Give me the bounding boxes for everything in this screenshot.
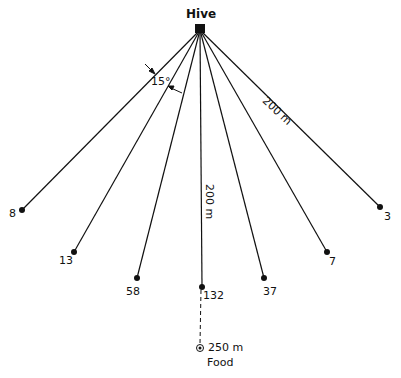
station-count-label: 13 [59,255,73,267]
station-count-label: 37 [263,286,277,298]
fan-diagram [0,0,401,378]
hive-marker [195,24,205,33]
station-count-label: 58 [126,286,140,298]
food-label: Food [207,357,233,369]
food-dashed-line [200,290,201,344]
station-count-label: 132 [203,290,224,302]
distance-label-vertical: 200 m [203,184,215,219]
food-marker [197,345,204,352]
radial-lines [22,30,380,287]
station-count-label: 3 [384,211,391,223]
angle-label: 15° [151,76,171,88]
station-count-label: 7 [329,256,336,268]
food-distance-label: 250 m [208,342,243,354]
station-count-label: 8 [9,208,16,220]
hive-label: Hive [186,8,216,20]
